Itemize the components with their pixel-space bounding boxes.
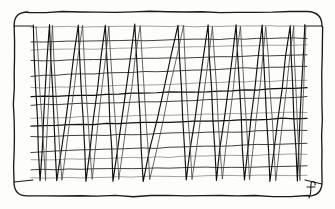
line-drawing-canvas [0,0,335,209]
artboard: Zigzag Weave [0,0,335,209]
